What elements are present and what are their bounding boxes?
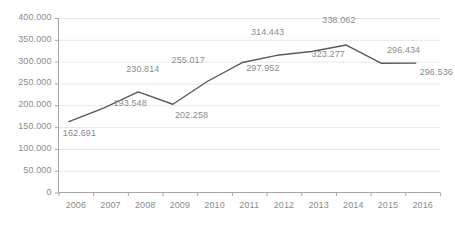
data-point-label: 162.691 bbox=[63, 128, 96, 138]
data-point-label: 314.443 bbox=[251, 27, 284, 37]
x-axis-tick-label: 2015 bbox=[371, 200, 406, 210]
y-axis-tick-label: 400.000 bbox=[0, 12, 52, 22]
x-axis-tick-label: 2008 bbox=[128, 200, 163, 210]
y-axis-tick-label: 200.000 bbox=[0, 99, 52, 109]
x-axis-tick-label: 2014 bbox=[336, 200, 371, 210]
data-series-line bbox=[69, 45, 416, 122]
x-axis-tick-label: 2010 bbox=[197, 200, 232, 210]
y-axis-tick-label: 100.000 bbox=[0, 143, 52, 153]
data-point-label: 296.536 bbox=[420, 67, 453, 77]
x-axis-tick-label: 2011 bbox=[232, 200, 267, 210]
x-axis-tick-label: 2006 bbox=[59, 200, 94, 210]
x-axis-tick-label: 2016 bbox=[405, 200, 440, 210]
chart-canvas bbox=[0, 0, 455, 230]
x-axis-tick-label: 2007 bbox=[93, 200, 128, 210]
data-point-label: 338.062 bbox=[322, 15, 355, 25]
y-axis-tick-label: 300.000 bbox=[0, 56, 52, 66]
data-point-label: 296.434 bbox=[387, 45, 420, 55]
x-axis-tick-label: 2009 bbox=[163, 200, 198, 210]
data-point-label: 323.277 bbox=[312, 49, 345, 59]
line-chart: 400.000350.000300.000250.000200.000150.0… bbox=[0, 0, 455, 230]
x-axis-tick-label: 2012 bbox=[267, 200, 302, 210]
gridlines bbox=[59, 19, 441, 172]
data-point-label: 297.952 bbox=[246, 63, 279, 73]
y-axis-tick-label: 350.000 bbox=[0, 34, 52, 44]
data-point-label: 255.017 bbox=[172, 55, 205, 65]
x-axis-tick-label: 2013 bbox=[301, 200, 336, 210]
data-point-label: 230.814 bbox=[126, 64, 159, 74]
y-axis-tick-label: 0 bbox=[0, 187, 52, 197]
x-axis-ticks bbox=[59, 193, 441, 197]
y-axis-tick-label: 250.000 bbox=[0, 77, 52, 87]
y-axis-tick-label: 150.000 bbox=[0, 121, 52, 131]
y-axis-tick-label: 50.000 bbox=[0, 165, 52, 175]
data-point-label: 202.258 bbox=[175, 110, 208, 120]
data-point-label: 193.548 bbox=[114, 98, 147, 108]
y-axis-ticks bbox=[55, 19, 59, 194]
